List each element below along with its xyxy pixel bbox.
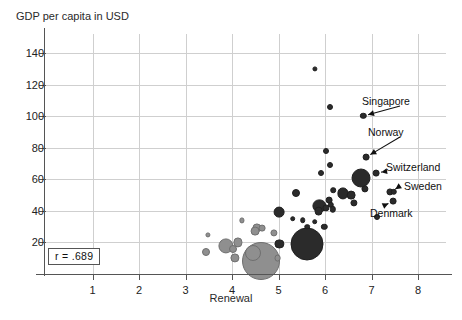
- data-point-bubble: [318, 170, 324, 176]
- y-tick-label: 100: [26, 110, 44, 122]
- annotation-switzerland: Switzerland: [386, 161, 440, 173]
- annotation-norway: Norway: [368, 126, 404, 138]
- gridline-vertical: [279, 34, 280, 274]
- y-axis-line: [44, 28, 45, 276]
- data-point-bubble: [274, 207, 285, 218]
- gridline-horizontal: [46, 179, 446, 180]
- gridline-vertical: [325, 34, 326, 274]
- data-point-bubble: [391, 189, 397, 195]
- y-tick-label: 80: [32, 142, 44, 154]
- data-point-bubble: [292, 189, 300, 197]
- data-point-bubble: [275, 239, 284, 248]
- data-point-bubble: [323, 148, 329, 154]
- data-point-bubble: [361, 185, 368, 192]
- y-tick-label: 120: [26, 79, 44, 91]
- gridline-vertical: [372, 34, 373, 274]
- plot-surface: [46, 34, 446, 274]
- data-point-bubble: [240, 218, 245, 223]
- data-point-bubble: [274, 255, 281, 262]
- plot-area: 2040608010012014012345678: [46, 34, 446, 274]
- x-axis-line: [36, 274, 452, 275]
- data-point-bubble: [290, 216, 296, 222]
- gridline-horizontal: [46, 116, 446, 117]
- y-tick-label: 140: [26, 47, 44, 59]
- data-point-bubble: [230, 254, 239, 263]
- data-point-bubble: [321, 223, 327, 229]
- data-point-bubble: [350, 199, 357, 206]
- data-point-bubble: [312, 66, 317, 71]
- x-tick-mark: [93, 274, 94, 280]
- data-point-bubble: [300, 218, 306, 224]
- data-point-bubble: [327, 104, 333, 110]
- gridline-horizontal: [46, 85, 446, 86]
- gridline-vertical: [418, 34, 419, 274]
- x-tick-mark: [139, 274, 140, 280]
- gridline-horizontal: [46, 242, 446, 243]
- gridline-vertical: [232, 34, 233, 274]
- data-point-bubble: [360, 113, 366, 119]
- annotation-singapore: Singapore: [362, 95, 410, 107]
- gridline-vertical: [186, 34, 187, 274]
- gridline-vertical: [139, 34, 140, 274]
- annotation-sweden: Sweden: [404, 180, 442, 192]
- data-point-bubble: [291, 228, 324, 261]
- data-point-bubble: [312, 219, 318, 225]
- x-tick-mark: [372, 274, 373, 280]
- x-tick-mark: [232, 274, 233, 280]
- data-point-bubble: [205, 232, 210, 237]
- gridline-horizontal: [46, 148, 446, 149]
- y-axis-title: GDP per capita in USD: [16, 10, 129, 22]
- data-point-bubble: [363, 154, 370, 161]
- data-point-bubble: [347, 191, 356, 200]
- data-point-bubble: [202, 248, 210, 256]
- annotation-denmark: Denmark: [370, 207, 413, 219]
- correlation-box: r = .689: [48, 248, 100, 265]
- y-tick-label: 40: [32, 205, 44, 217]
- x-axis-title: Renewal: [0, 292, 462, 304]
- gridline-horizontal: [46, 53, 446, 54]
- data-point-bubble: [390, 198, 397, 205]
- bubble-chart: GDP per capita in USD 204060801001201401…: [0, 0, 462, 320]
- data-point-bubble: [245, 245, 261, 261]
- x-tick-mark: [186, 274, 187, 280]
- data-point-bubble: [331, 188, 337, 194]
- data-point-bubble: [305, 224, 311, 230]
- data-point-bubble: [352, 168, 371, 187]
- gridline-vertical: [93, 34, 94, 274]
- data-point-bubble: [327, 162, 333, 168]
- data-point-bubble: [229, 245, 237, 253]
- data-point-bubble: [270, 229, 277, 236]
- x-tick-mark: [325, 274, 326, 280]
- data-point-bubble: [373, 170, 380, 177]
- y-tick-label: 60: [32, 173, 44, 185]
- x-tick-mark: [279, 274, 280, 280]
- data-point-bubble: [258, 225, 265, 232]
- x-tick-mark: [418, 274, 419, 280]
- y-tick-label: 20: [32, 236, 44, 248]
